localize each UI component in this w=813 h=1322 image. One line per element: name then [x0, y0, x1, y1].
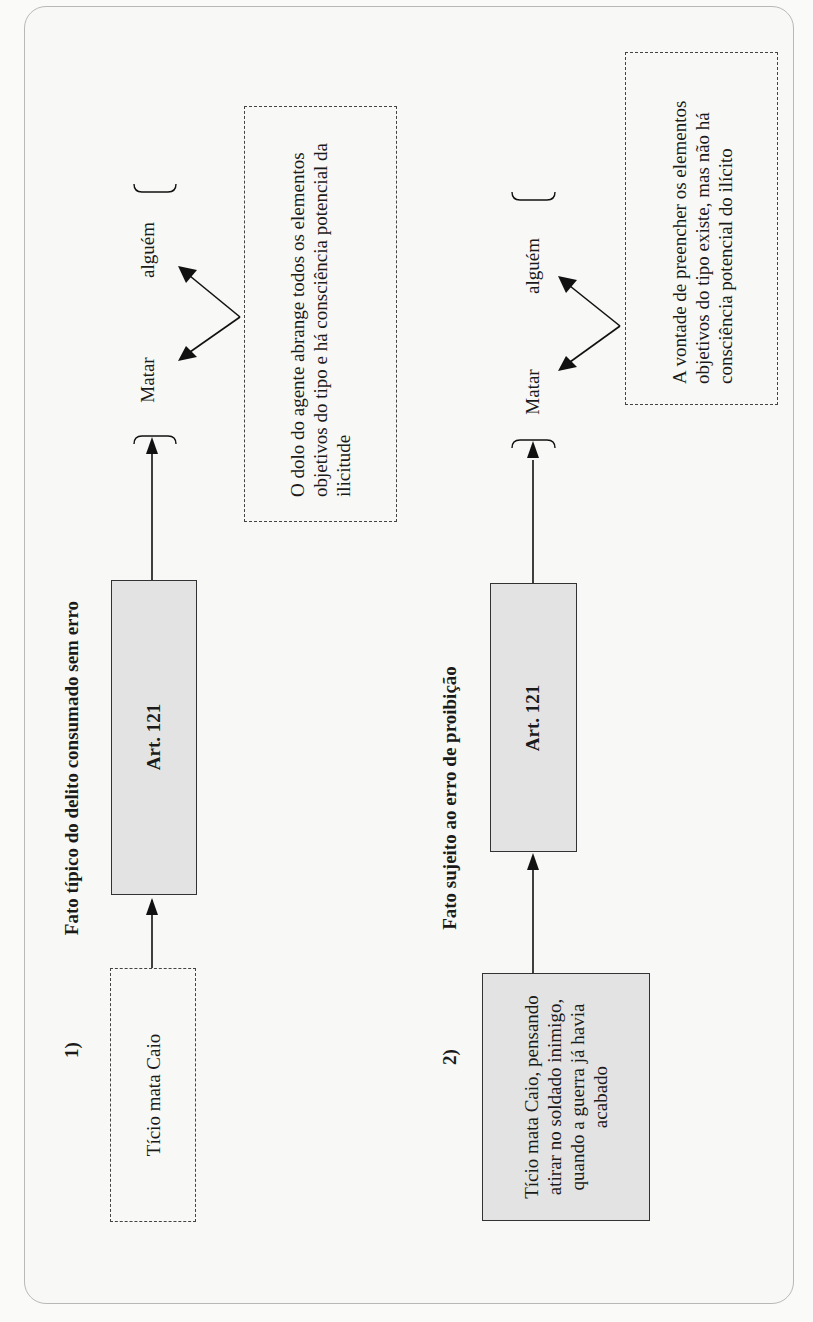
section-2-number: 2)	[438, 1037, 462, 1077]
section-1-number: 1)	[60, 1030, 84, 1070]
section-1-term-alguem: alguém	[136, 215, 160, 285]
section-2-fact-text: Tício mata Caio, pensando atirar no sold…	[491, 977, 641, 1217]
section-1-article-label: Art. 121	[141, 687, 167, 787]
section-2-term-alguem: alguém	[521, 231, 545, 301]
section-1-term-matar: Matar	[136, 350, 160, 410]
section-2-note-text: A vontade de preencher os elementos obje…	[641, 64, 763, 394]
section-2-term-matar: Matar	[521, 362, 545, 422]
section-2-article-label: Art. 121	[520, 668, 546, 768]
section-2-heading: Fato sujeito ao erro de proibição	[437, 588, 463, 1008]
section-1-heading: Fato típico do delito consumado sem erro	[59, 558, 85, 978]
section-1-note-text: O dolo do agente abrange todos os elemen…	[260, 115, 380, 505]
section-1-fact-text: Tício mata Caio	[140, 970, 166, 1220]
